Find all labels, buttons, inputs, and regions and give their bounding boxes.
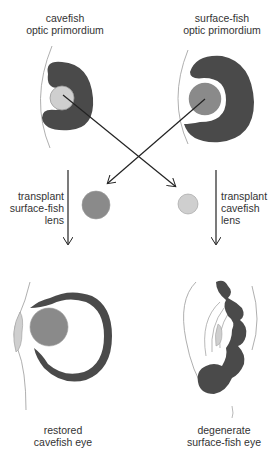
lens-transplant-diagram	[0, 0, 272, 454]
degenerate-lens	[215, 324, 222, 346]
label-line: surface-fish	[0, 202, 64, 214]
transplanted-cave-lens	[178, 194, 198, 214]
surface-primordium	[178, 50, 254, 144]
degenerate-eye-label: degenerate surface-fish eye	[176, 424, 272, 448]
arrow-cave-lens-to-right	[63, 95, 175, 186]
label-line: degenerate	[176, 424, 272, 436]
transplant-surface-label: transplant surface-fish lens	[0, 190, 64, 226]
restored-cavefish-eye	[14, 282, 112, 410]
restored-cornea	[14, 312, 23, 352]
surface-body-outline	[178, 50, 188, 144]
cavefish-lens	[50, 86, 74, 110]
degenerate-surface-eye	[184, 281, 257, 418]
restored-eye-label: restored cavefish eye	[18, 424, 108, 448]
label-line: lens	[221, 214, 272, 226]
degenerate-bottom-outline	[232, 406, 233, 418]
cavefish-primordium-label: cavefish optic primordium	[20, 12, 110, 36]
label-line: optic primordium	[20, 24, 110, 36]
label-line: restored	[18, 424, 108, 436]
transplant-cave-label: transplant cavefish lens	[221, 190, 272, 226]
label-line: cavefish	[20, 12, 110, 24]
label-line: lens	[0, 214, 64, 226]
label-line: cavefish	[221, 202, 272, 214]
degenerate-right-outline	[252, 286, 257, 350]
surface-primordium-label: surface-fish optic primordium	[174, 12, 270, 36]
label-line: optic primordium	[174, 24, 270, 36]
restored-lens	[30, 308, 68, 346]
label-line: transplant	[0, 190, 64, 202]
label-line: surface-fish eye	[176, 436, 272, 448]
transplanted-surface-lens	[82, 191, 110, 219]
label-line: surface-fish	[174, 12, 270, 24]
label-line: transplant	[221, 190, 272, 202]
cavefish-primordium	[40, 46, 93, 148]
label-line: cavefish eye	[18, 436, 108, 448]
